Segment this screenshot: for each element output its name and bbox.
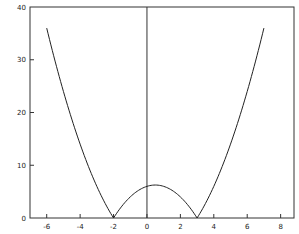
x-tick-label: -2: [110, 223, 117, 231]
y-tick-label: 0: [22, 215, 26, 223]
x-tick-label: 8: [278, 223, 282, 231]
y-tick-label: 30: [17, 56, 26, 64]
x-tick-label: 0: [145, 223, 149, 231]
x-tick-label: 4: [212, 223, 217, 231]
chart: 010203040 -6-4-202468: [0, 0, 299, 234]
y-tick-label: 20: [17, 109, 26, 117]
y-tick-label: 40: [17, 4, 26, 12]
y-tick-label: 10: [17, 162, 26, 170]
x-tick-label: -4: [77, 223, 85, 231]
x-tick-label: 2: [178, 223, 182, 231]
x-tick-label: 6: [245, 223, 250, 231]
x-tick-label: -6: [43, 223, 51, 231]
